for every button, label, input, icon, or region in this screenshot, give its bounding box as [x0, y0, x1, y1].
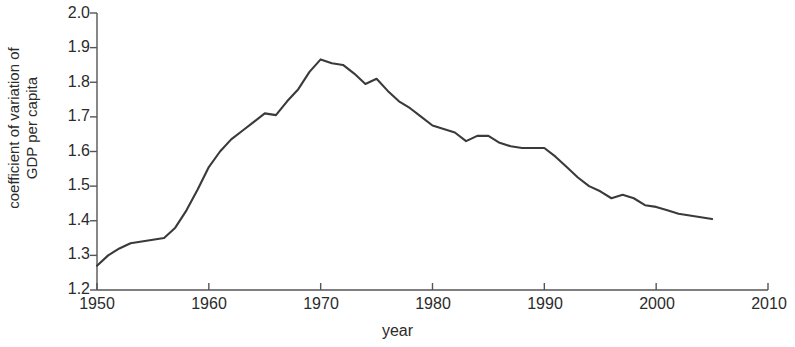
tick-marks	[90, 13, 768, 290]
data-series-line	[97, 59, 712, 265]
plot-area	[0, 0, 795, 347]
axis-lines	[97, 13, 768, 290]
chart-figure: coefficient of variation of GDP per capi…	[0, 0, 795, 347]
